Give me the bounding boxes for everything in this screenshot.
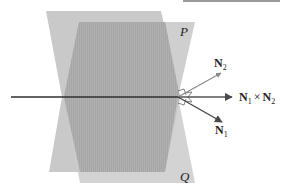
cross-b-sub: 2 (271, 97, 275, 106)
plane-p-label: P (180, 25, 188, 38)
cross-a: N (239, 90, 248, 104)
n1-label-base: N (215, 123, 224, 137)
cross-product-label: N1×N2 (239, 91, 275, 106)
n1-label-sub: 1 (224, 130, 228, 139)
cross-b: N (262, 90, 271, 104)
plane-q-label: Q (180, 170, 189, 183)
n2-label-base: N (214, 56, 223, 70)
n2-arrow (178, 73, 221, 97)
cross-operator: × (254, 90, 261, 104)
n2-label-sub: 2 (223, 63, 227, 72)
n2-label: N2 (214, 57, 227, 72)
cross-a-sub: 1 (248, 97, 252, 106)
n1-label: N1 (215, 124, 228, 139)
n1-arrow (178, 97, 222, 122)
